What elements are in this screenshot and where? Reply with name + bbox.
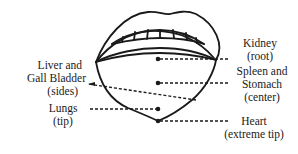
spleen-stomach-label: Spleen and Stomach (center): [226, 65, 298, 104]
heart-label: Heart (extreme tip): [212, 115, 296, 141]
lungs-point: [156, 107, 161, 112]
kidney-point: [156, 57, 161, 62]
spleen-point: [156, 81, 161, 86]
liver-leader: [88, 84, 196, 100]
liver-label: Liver and Gall Bladder (sides): [8, 59, 86, 98]
kidney-label: Kidney (root): [232, 37, 288, 63]
lungs-label: Lungs (tip): [40, 102, 86, 128]
liver-arrow: [88, 82, 95, 86]
heart-point: [156, 119, 161, 124]
tongue-outline: [96, 60, 216, 121]
